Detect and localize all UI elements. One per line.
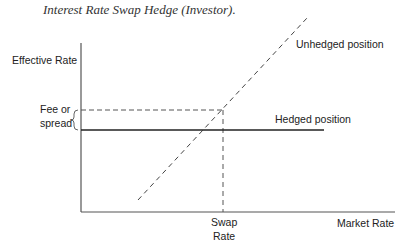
unhedged-label: Unhedged position [296,38,384,50]
unhedged-line [138,18,307,200]
fee-label-2: spread [40,117,72,129]
fee-label-1: Fee or [40,103,70,115]
swap-label-1: Swap [211,216,237,228]
x-axis-label: Market Rate [337,217,394,229]
hedged-label: Hedged position [275,113,351,125]
y-axis-label: Effective Rate [12,54,77,66]
swap-label-2: Rate [213,230,235,242]
